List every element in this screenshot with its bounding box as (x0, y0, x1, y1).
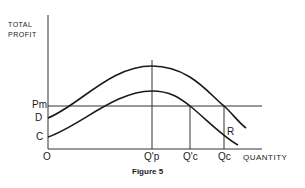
y-axis-title-line1: TOTAL (8, 20, 32, 30)
d-label: D (35, 113, 42, 123)
qc-prime-label: Q'c (183, 152, 198, 162)
lower-profit-curve (48, 91, 238, 145)
qc-label: Qc (218, 152, 231, 162)
pm-label: Pm (32, 100, 47, 110)
r-label: R (227, 127, 234, 137)
c-label: C (36, 132, 43, 142)
qp-label: Q'p (144, 152, 159, 162)
figure-caption: Figure 5 (132, 167, 163, 177)
x-axis-title: QUANTITY (243, 153, 287, 163)
origin-label: O (43, 152, 51, 162)
y-axis-title-line2: PROFIT (8, 30, 37, 40)
upper-profit-curve (48, 66, 246, 128)
